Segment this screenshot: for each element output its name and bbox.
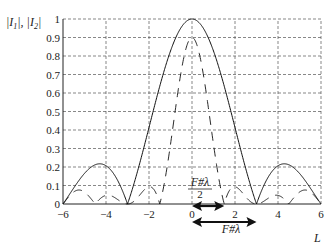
x-tick-labels: −6−4−20246	[57, 208, 324, 220]
svg-text:−6: −6	[57, 208, 69, 220]
svg-text:0.5: 0.5	[46, 106, 60, 118]
svg-text:−2: −2	[143, 208, 155, 220]
svg-text:0.6: 0.6	[46, 87, 60, 99]
svg-text:0.8: 0.8	[46, 50, 60, 62]
svg-text:6: 6	[318, 208, 324, 220]
svg-text:1: 1	[55, 13, 61, 25]
y-tick-labels: 00.10.20.30.40.50.60.70.80.91	[46, 13, 60, 210]
svg-text:2: 2	[197, 188, 203, 200]
svg-text:0.3: 0.3	[46, 143, 60, 155]
annotation-fnumber-lambda: F#λ	[221, 222, 241, 236]
svg-text:0.1: 0.1	[46, 180, 60, 192]
svg-text:0.2: 0.2	[46, 161, 60, 173]
svg-text:0.4: 0.4	[46, 124, 60, 136]
svg-text:0.9: 0.9	[46, 32, 60, 44]
svg-text:4: 4	[275, 208, 281, 220]
svg-text:−4: −4	[100, 208, 112, 220]
svg-text:2: 2	[232, 208, 238, 220]
svg-text:0: 0	[189, 208, 195, 220]
x-axis-label: L	[313, 231, 321, 245]
svg-text:0.7: 0.7	[46, 69, 60, 81]
y-axis-label: |I1|, |I2|	[6, 15, 41, 31]
svg-text:F#λ: F#λ	[190, 175, 210, 189]
annotation-half-fnumber-lambda: F#λ 2	[188, 175, 212, 200]
chart: 00.10.20.30.40.50.60.70.80.91 −6−4−20246…	[0, 0, 336, 246]
